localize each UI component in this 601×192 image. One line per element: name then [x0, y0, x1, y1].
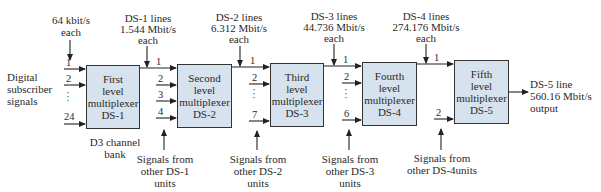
- box-line: DS-2: [193, 108, 216, 120]
- box-line: multiplexer: [88, 97, 139, 109]
- ds5-output-label: DS-5 line 560.16 Mbit/s output: [530, 78, 592, 114]
- label-line: units: [134, 177, 196, 189]
- box-line: level: [471, 80, 492, 92]
- box-line: DS-3: [285, 107, 308, 119]
- box-line: level: [286, 83, 307, 95]
- input-number: 2: [252, 73, 257, 83]
- box-line: multiplexer: [456, 92, 507, 104]
- input-number: 6: [344, 109, 349, 119]
- multiplexer-ds2-box: Second level multiplexer DS-2: [177, 64, 232, 128]
- box-line: level: [379, 82, 400, 94]
- box-line: Fifth: [471, 68, 492, 80]
- input-number: 1: [434, 53, 439, 63]
- digital-subscriber-signals-label: Digital subscriber signals: [7, 71, 52, 107]
- ellipsis-dots: ···: [65, 91, 71, 103]
- input-number: 1: [156, 57, 161, 67]
- box-line: DS-5: [470, 104, 493, 116]
- box-line: level: [194, 84, 215, 96]
- label-line: each: [116, 35, 180, 46]
- signals-other-ds1-label: Signals from other DS-1 units: [134, 153, 196, 189]
- label-line: Digital: [7, 71, 52, 83]
- input-number: 3: [158, 90, 163, 100]
- top-label-ds3-lines: DS-3 lines 44.736 Mbit/s each: [299, 11, 369, 44]
- box-line: multiplexer: [364, 94, 415, 106]
- top-label-64kbit: 64 kbit/s each: [45, 14, 97, 38]
- label-line: each: [45, 26, 97, 38]
- box-line: multiplexer: [179, 96, 230, 108]
- label-line: units: [227, 177, 289, 189]
- top-label-ds1-lines: DS-1 lines 1.544 Mbit/s each: [116, 13, 180, 46]
- multiplexer-ds4-box: Fourth level multiplexer DS-4: [362, 62, 417, 126]
- input-number: 2: [436, 108, 441, 118]
- input-number: 1: [343, 55, 348, 65]
- signals-other-ds4-label: Signals from other DS-4units: [402, 152, 482, 176]
- label-line: Signals from: [319, 153, 381, 165]
- label-line: units: [319, 177, 381, 189]
- box-line: Second: [188, 72, 220, 84]
- input-number: 24: [64, 112, 75, 122]
- multiplexer-ds3-box: Third level multiplexer DS-3: [270, 63, 324, 127]
- label-line: D3 channel: [84, 136, 146, 148]
- box-line: level: [102, 85, 123, 97]
- input-number: 2: [66, 74, 71, 84]
- input-number: 1: [250, 56, 255, 66]
- label-line: Signals from: [402, 152, 482, 164]
- label-line: signals: [7, 95, 52, 107]
- input-number: 2: [344, 72, 349, 82]
- box-line: DS-4: [378, 106, 401, 118]
- label-line: each: [299, 33, 369, 44]
- top-label-ds2-lines: DS-2 lines 6.312 Mbit/s each: [207, 12, 271, 45]
- input-number: 4: [158, 107, 163, 117]
- label-line: subscriber: [7, 83, 52, 95]
- label-line: Signals from: [227, 153, 289, 165]
- top-label-ds4-lines: DS-4 lines 274.176 Mbit/s each: [388, 11, 464, 44]
- box-line: DS-1: [101, 109, 124, 121]
- label-line: DS-5 line: [530, 78, 592, 90]
- input-number: 7: [252, 110, 257, 120]
- box-line: First: [103, 73, 123, 85]
- multiplexer-ds1-box: First level multiplexer DS-1: [86, 65, 140, 129]
- box-line: Third: [285, 71, 309, 83]
- label-line: other DS-4units: [402, 164, 482, 176]
- label-line: other DS-2: [227, 165, 289, 177]
- input-number: 1: [66, 58, 71, 68]
- input-number: 2: [158, 74, 163, 84]
- ellipsis-dots: ···: [343, 88, 349, 100]
- label-line: Signals from: [134, 153, 196, 165]
- label-line: 64 kbit/s: [45, 14, 97, 26]
- multiplexer-ds5-box: Fifth level multiplexer DS-5: [454, 60, 509, 124]
- label-line: 560.16 Mbit/s: [530, 90, 592, 102]
- label-line: output: [530, 102, 592, 114]
- label-line: other DS-3: [319, 165, 381, 177]
- ellipsis-dots: ···: [251, 88, 257, 100]
- box-line: Fourth: [375, 70, 404, 82]
- signals-other-ds3-label: Signals from other DS-3 units: [319, 153, 381, 189]
- label-line: each: [388, 33, 464, 44]
- label-line: each: [207, 34, 271, 45]
- label-line: other DS-1: [134, 165, 196, 177]
- signals-other-ds2-label: Signals from other DS-2 units: [227, 153, 289, 189]
- box-line: multiplexer: [272, 95, 323, 107]
